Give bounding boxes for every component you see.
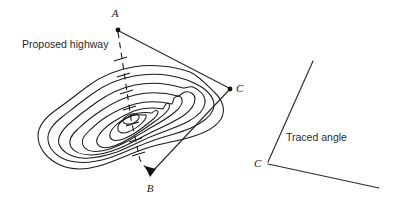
- traced-angle-group: [268, 61, 379, 188]
- traced-angle-lower-ray: [268, 164, 379, 188]
- point-c-map-dot: [228, 87, 233, 92]
- point-a-label: A: [111, 7, 119, 19]
- arrowhead-at-b: [145, 166, 156, 177]
- profile-tick-7: [114, 57, 127, 61]
- traced-angle-upper-ray: [268, 61, 313, 162]
- sight-line-a-to-c: [119, 31, 229, 88]
- point-a-dot: [116, 28, 121, 33]
- profile-tick-2: [120, 90, 133, 94]
- point-b-label: B: [147, 182, 154, 194]
- proposed-highway-label: Proposed highway: [22, 38, 109, 50]
- profile-tick-1: [117, 73, 130, 77]
- traced-angle-label: Traced angle: [286, 131, 347, 143]
- diagram-canvas: A B C Proposed highway C Traced angle: [0, 0, 396, 199]
- contour-map-svg: A B C Proposed highway C Traced angle: [0, 0, 396, 199]
- point-c-map-label: C: [236, 82, 244, 94]
- point-c-angle-label: C: [254, 157, 262, 169]
